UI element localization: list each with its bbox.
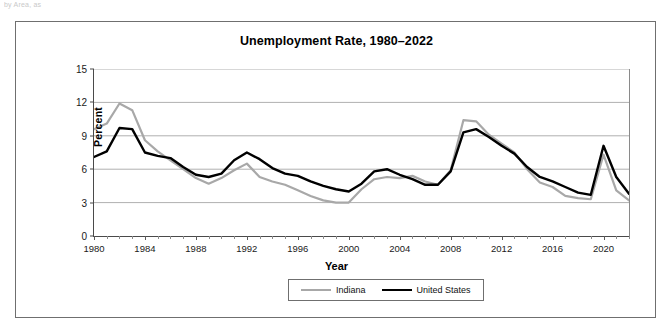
x-tick-mark-minor <box>412 236 413 239</box>
page-header-caption: by Area, as <box>4 0 124 12</box>
y-axis-title: Percent <box>92 87 104 167</box>
x-tick-mark-minor <box>425 236 426 239</box>
legend-item-indiana[interactable]: Indiana <box>301 285 366 295</box>
x-tick-label: 2012 <box>491 243 512 254</box>
legend-item-united-states[interactable]: United States <box>382 285 471 295</box>
y-tick-mark <box>90 202 94 203</box>
x-tick-label: 2020 <box>593 243 614 254</box>
x-tick-label: 1980 <box>83 243 104 254</box>
y-tick-label: 9 <box>81 130 87 141</box>
x-tick-mark-minor <box>578 236 579 239</box>
x-tick-mark <box>502 236 503 240</box>
x-tick-label: 1996 <box>287 243 308 254</box>
x-tick-mark <box>349 236 350 240</box>
x-tick-mark-minor <box>629 236 630 239</box>
x-tick-mark <box>94 236 95 240</box>
x-tick-mark <box>604 236 605 240</box>
x-tick-mark-minor <box>260 236 261 239</box>
chart-frame: Unemployment Rate, 1980–2022 03691215 19… <box>15 21 656 318</box>
x-tick-mark-minor <box>209 236 210 239</box>
y-tick-label: 6 <box>81 164 87 175</box>
x-tick-mark-minor <box>540 236 541 239</box>
chart-title: Unemployment Rate, 1980–2022 <box>16 34 657 48</box>
x-tick-mark-minor <box>183 236 184 239</box>
y-tick-label: 0 <box>81 231 87 242</box>
x-tick-mark-minor <box>272 236 273 239</box>
x-tick-mark <box>247 236 248 240</box>
x-tick-label: 1984 <box>134 243 155 254</box>
x-tick-mark-minor <box>158 236 159 239</box>
x-tick-mark-minor <box>132 236 133 239</box>
x-tick-mark <box>298 236 299 240</box>
x-tick-mark-minor <box>565 236 566 239</box>
x-tick-mark-minor <box>285 236 286 239</box>
x-tick-label: 2000 <box>338 243 359 254</box>
x-tick-mark-minor <box>591 236 592 239</box>
legend-swatch-line-icon <box>382 289 412 291</box>
chart-legend: IndianaUnited States <box>288 279 484 301</box>
x-tick-label: 2008 <box>440 243 461 254</box>
x-tick-mark-minor <box>527 236 528 239</box>
legend-label: United States <box>417 285 471 295</box>
x-tick-mark-minor <box>336 236 337 239</box>
x-tick-mark-minor <box>514 236 515 239</box>
y-tick-label: 12 <box>76 97 87 108</box>
x-tick-mark-minor <box>463 236 464 239</box>
x-tick-mark-minor <box>221 236 222 239</box>
plot-area: 03691215 1980198419881992199620002004200… <box>93 69 630 237</box>
x-tick-mark <box>400 236 401 240</box>
x-tick-mark-minor <box>374 236 375 239</box>
chart-plot-svg <box>94 69 629 236</box>
x-axis-title: Year <box>16 260 657 272</box>
x-tick-mark <box>553 236 554 240</box>
y-tick-mark <box>90 169 94 170</box>
x-tick-mark-minor <box>107 236 108 239</box>
x-tick-mark <box>145 236 146 240</box>
x-tick-mark <box>451 236 452 240</box>
x-tick-label: 1992 <box>236 243 257 254</box>
x-tick-mark-minor <box>438 236 439 239</box>
legend-label: Indiana <box>336 285 366 295</box>
series-lines <box>94 104 629 203</box>
x-tick-mark-minor <box>119 236 120 239</box>
x-tick-mark-minor <box>234 236 235 239</box>
x-tick-label: 2004 <box>389 243 410 254</box>
chart-screenshot: by Area, as Unemployment Rate, 1980–2022… <box>0 0 669 331</box>
series-line-indiana <box>94 104 629 203</box>
legend-swatch-line-icon <box>301 289 331 291</box>
x-tick-mark-minor <box>170 236 171 239</box>
y-tick-label: 15 <box>76 64 87 75</box>
x-tick-mark <box>196 236 197 240</box>
x-tick-label: 2016 <box>542 243 563 254</box>
y-tick-mark <box>90 69 94 70</box>
x-tick-mark-minor <box>362 236 363 239</box>
x-tick-mark-minor <box>323 236 324 239</box>
x-tick-mark-minor <box>616 236 617 239</box>
x-tick-mark-minor <box>311 236 312 239</box>
x-tick-mark-minor <box>489 236 490 239</box>
y-tick-label: 3 <box>81 197 87 208</box>
x-tick-mark-minor <box>476 236 477 239</box>
x-tick-mark-minor <box>387 236 388 239</box>
x-tick-label: 1988 <box>185 243 206 254</box>
